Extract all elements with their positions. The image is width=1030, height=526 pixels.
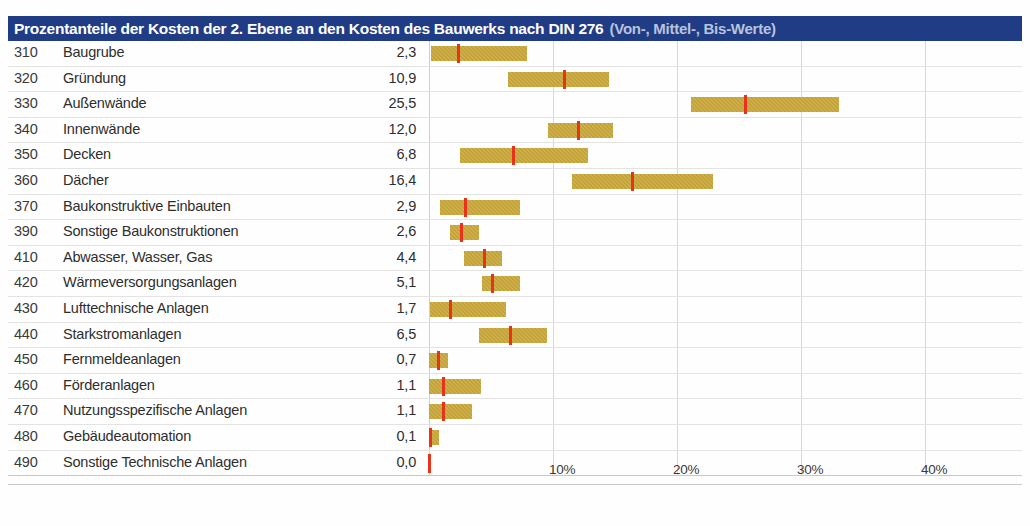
gridline-10 — [553, 399, 554, 424]
cost-group-table: 310Baugrube2,3320Gründung10,9330Außenwän… — [8, 41, 1022, 484]
row-code: 420 — [14, 274, 52, 290]
row-value: 6,5 — [308, 326, 416, 342]
row-value: 0,7 — [308, 351, 416, 367]
row-plot-area — [421, 169, 1022, 194]
table-row[interactable]: 490Sonstige Technische Anlagen0,0 — [8, 451, 1022, 477]
range-bar — [572, 174, 713, 189]
gridline-40 — [925, 169, 926, 194]
gridline-40 — [925, 348, 926, 373]
axis-tick-label: 40% — [921, 462, 947, 477]
table-row[interactable]: 330Außenwände25,5 — [8, 92, 1022, 118]
row-label: Baukonstruktive Einbauten — [63, 198, 231, 214]
row-code: 440 — [14, 326, 52, 342]
table-row[interactable]: 370Baukonstruktive Einbauten2,9 — [8, 195, 1022, 221]
gridline-zero — [429, 118, 430, 143]
gridline-30 — [801, 399, 802, 424]
gridline-40 — [925, 67, 926, 92]
gridline-30 — [801, 271, 802, 296]
row-value: 2,3 — [308, 44, 416, 60]
table-row[interactable]: 350Decken6,8 — [8, 143, 1022, 169]
gridline-20 — [677, 220, 678, 245]
mean-marker — [457, 44, 460, 63]
gridline-40 — [925, 297, 926, 322]
gridline-30 — [801, 143, 802, 168]
gridline-10 — [553, 323, 554, 348]
table-row[interactable]: 450Fernmeldeanlagen0,7 — [8, 348, 1022, 374]
row-label: Gründung — [63, 70, 126, 86]
table-row[interactable]: 320Gründung10,9 — [8, 67, 1022, 93]
row-label: Baugrube — [63, 44, 124, 60]
gridline-30 — [801, 41, 802, 66]
row-label: Wärmeversorgungsanlagen — [63, 274, 237, 290]
table-row[interactable]: 420Wärmeversorgungsanlagen5,1 — [8, 271, 1022, 297]
page-subtitle: (Von-, Mittel-, Bis-Werte) — [610, 20, 776, 37]
gridline-40 — [925, 195, 926, 220]
row-label: Innenwände — [63, 121, 140, 137]
axis-tick-label: 20% — [673, 462, 699, 477]
mean-marker — [442, 377, 445, 396]
row-code: 360 — [14, 172, 52, 188]
range-bar — [429, 404, 472, 419]
row-label: Fernmeldeanlagen — [63, 351, 181, 367]
gridline-30 — [801, 220, 802, 245]
row-code: 430 — [14, 300, 52, 316]
mean-marker — [442, 402, 445, 421]
table-row[interactable]: 360Dächer16,4 — [8, 169, 1022, 195]
table-row[interactable]: 310Baugrube2,3 — [8, 41, 1022, 67]
row-plot-area — [421, 220, 1022, 245]
mean-marker — [744, 95, 747, 114]
row-value: 1,7 — [308, 300, 416, 316]
mean-marker — [449, 300, 452, 319]
table-row[interactable]: 390Sonstige Baukonstruktionen2,6 — [8, 220, 1022, 246]
row-plot-area — [421, 323, 1022, 348]
row-plot-area — [421, 246, 1022, 271]
x-axis: 10%20%30%40% — [413, 484, 1030, 506]
row-plot-area — [421, 67, 1022, 92]
range-bar — [691, 97, 840, 112]
row-plot-area — [421, 425, 1022, 450]
chart-title-bar: Prozentanteile der Kosten der 2. Ebene a… — [8, 16, 1022, 41]
table-row[interactable]: 340Innenwände12,0 — [8, 118, 1022, 144]
gridline-40 — [925, 425, 926, 450]
row-label: Abwasser, Wasser, Gas — [63, 249, 212, 265]
mean-marker — [491, 274, 494, 293]
gridline-20 — [677, 374, 678, 399]
row-code: 460 — [14, 377, 52, 393]
gridline-10 — [553, 220, 554, 245]
range-bar — [548, 123, 612, 138]
range-bar — [431, 46, 526, 61]
mean-marker — [437, 351, 440, 370]
gridline-zero — [429, 41, 430, 66]
range-bar — [479, 328, 547, 343]
gridline-40 — [925, 143, 926, 168]
table-row[interactable]: 440Starkstromanlagen6,5 — [8, 323, 1022, 349]
row-code: 340 — [14, 121, 52, 137]
mean-marker — [429, 428, 432, 447]
range-bar — [440, 200, 519, 215]
mean-marker — [577, 121, 580, 140]
gridline-40 — [925, 41, 926, 66]
table-row[interactable]: 430Lufttechnische Anlagen1,7 — [8, 297, 1022, 323]
row-plot-area — [421, 374, 1022, 399]
gridline-zero — [429, 220, 430, 245]
range-bar — [460, 148, 588, 163]
gridline-10 — [553, 348, 554, 373]
row-label: Dächer — [63, 172, 109, 188]
gridline-10 — [553, 374, 554, 399]
row-code: 310 — [14, 44, 52, 60]
table-row[interactable]: 470Nutzungsspezifische Anlagen1,1 — [8, 399, 1022, 425]
mean-marker — [460, 223, 463, 242]
gridline-20 — [677, 195, 678, 220]
row-value: 1,1 — [308, 402, 416, 418]
gridline-20 — [677, 143, 678, 168]
row-code: 320 — [14, 70, 52, 86]
gridline-40 — [925, 118, 926, 143]
table-row[interactable]: 460Förderanlagen1,1 — [8, 374, 1022, 400]
table-row[interactable]: 410Abwasser, Wasser, Gas4,4 — [8, 246, 1022, 272]
mean-marker — [563, 70, 566, 89]
gridline-20 — [677, 425, 678, 450]
chart-sheet: Prozentanteile der Kosten der 2. Ebene a… — [0, 0, 1030, 526]
table-row[interactable]: 480Gebäudeautomation0,1 — [8, 425, 1022, 451]
row-code: 470 — [14, 402, 52, 418]
row-label: Decken — [63, 146, 111, 162]
